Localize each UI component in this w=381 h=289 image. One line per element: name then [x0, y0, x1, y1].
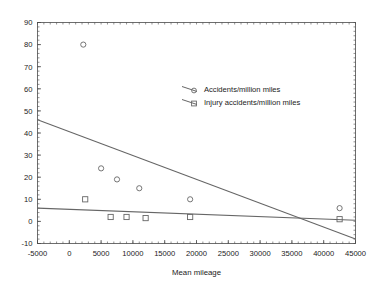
y-tick-label: 10	[24, 195, 32, 204]
y-tick-label: 30	[24, 151, 32, 160]
y-tick-label: 90	[24, 18, 32, 27]
legend-label: Accidents/million miles	[204, 85, 281, 94]
y-tick-label: 80	[24, 40, 32, 49]
x-tick-labels: -500005000100001500020000250003000035000…	[28, 249, 366, 258]
x-tick-label: 40000	[313, 249, 334, 258]
x-tick-label: 10000	[122, 249, 143, 258]
x-tick-label: -5000	[28, 249, 47, 258]
x-tick-label: 0	[67, 249, 71, 258]
legend-label: Injury accidents/million miles	[204, 98, 300, 107]
y-tick-labels: -100102030405060708090	[22, 18, 33, 248]
y-tick-label: -10	[22, 239, 33, 248]
chart-canvas: -500005000100001500020000250003000035000…	[0, 0, 381, 289]
x-tick-label: 45000	[345, 249, 366, 258]
x-axis-title: Mean mileage	[172, 268, 221, 277]
y-tick-label: 20	[24, 173, 32, 182]
scatter-plot-figure: -500005000100001500020000250003000035000…	[0, 0, 381, 289]
y-tick-label: 0	[28, 217, 32, 226]
x-tick-label: 35000	[281, 249, 302, 258]
x-tick-label: 20000	[186, 249, 207, 258]
y-tick-label: 60	[24, 85, 32, 94]
y-tick-label: 40	[24, 129, 32, 138]
y-tick-label: 50	[24, 107, 32, 116]
x-tick-label: 5000	[93, 249, 110, 258]
y-tick-label: 70	[24, 63, 32, 72]
x-tick-label: 15000	[154, 249, 175, 258]
x-tick-label: 30000	[250, 249, 271, 258]
x-tick-label: 25000	[218, 249, 239, 258]
